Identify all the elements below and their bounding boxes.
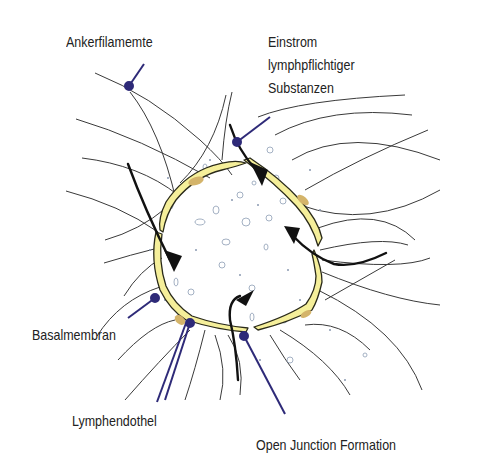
endothel-left-bottom [154,232,248,332]
endothel-top-left [160,161,246,232]
label-open-junction: Open Junction Formation [256,436,396,455]
label-pointers [125,64,285,414]
arrow-bottom [230,296,240,380]
label-basalmembran: Basalmembran [32,326,116,345]
arrow-right [292,235,386,265]
label-einstrom-line-1: Einstrom [268,33,317,52]
label-lymphendothel: Lymphendothel [72,412,157,431]
anchor-filaments [66,73,440,400]
label-ankerfilamente: Ankerfilamemte [66,33,153,52]
endothelial-cells [154,158,322,332]
lymph-capillary-diagram [0,0,478,475]
label-einstrom-line-3: Substanzen [268,79,334,98]
endothel-right [254,250,322,330]
label-einstrom-line-2: lymphpflichtiger [268,56,355,75]
